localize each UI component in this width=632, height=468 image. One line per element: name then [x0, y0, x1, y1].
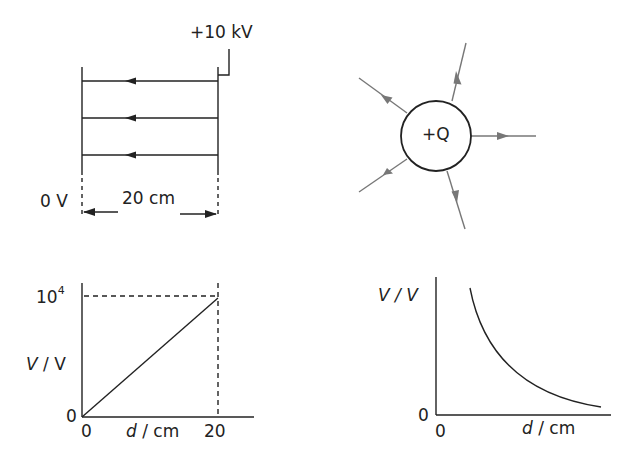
arrow-left-icon: [125, 78, 136, 85]
arrow-right-icon: [205, 210, 217, 218]
field-line: [359, 159, 407, 192]
figure-canvas: [0, 0, 632, 468]
x-tick-max: 20: [204, 423, 226, 440]
x-origin-label: 0: [435, 423, 446, 440]
arrow-left-icon: [125, 115, 136, 122]
y-tick-max: 104: [36, 287, 65, 306]
charge-label: +Q: [422, 126, 450, 143]
x-origin-label: 0: [81, 423, 92, 440]
arrow-outward-icon: [452, 190, 460, 203]
arrow-left-icon: [83, 208, 95, 216]
y-axis-label: V / V: [378, 287, 418, 304]
x-axis-label: d / cm: [126, 423, 179, 440]
arrow-outward-icon: [454, 71, 462, 85]
zero-voltage-label: 0 V: [40, 193, 68, 210]
x-axis-label: d / cm: [522, 420, 575, 437]
linear-potential-chart: [82, 283, 254, 417]
terminal-lead: [218, 49, 229, 75]
inverse-potential-chart: [436, 277, 611, 415]
field-line: [452, 43, 466, 101]
data-line: [82, 298, 218, 417]
arrow-left-icon: [125, 152, 136, 159]
data-curve: [470, 288, 601, 407]
arrow-outward-icon: [497, 132, 509, 140]
y-origin-label: 0: [418, 407, 429, 424]
separation-label: 20 cm: [122, 190, 175, 207]
high-voltage-label: +10 kV: [190, 24, 253, 41]
y-axis-label: V / V: [26, 356, 66, 373]
y-origin-label: 0: [66, 408, 77, 425]
arrow-outward-icon: [381, 95, 393, 104]
